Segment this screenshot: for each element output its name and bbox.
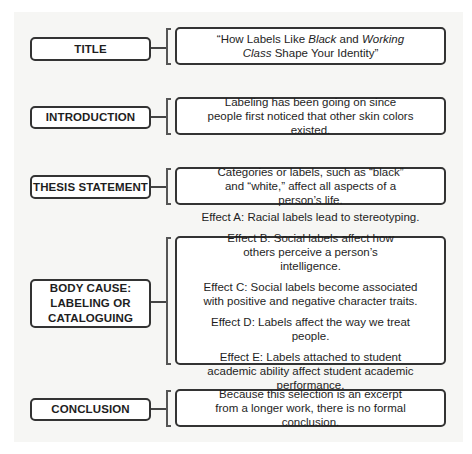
title-text-italic: Class — [243, 47, 272, 59]
thesis-content: Categories or labels, such as “black” an… — [207, 165, 414, 207]
effect-a: Effect A: Racial labels lead to stereoty… — [202, 210, 420, 224]
label-box-body-cause: BODY CAUSE: LABELING OR CATALOGUING — [30, 279, 151, 328]
label-box-introduction: INTRODUCTION — [30, 106, 151, 129]
effect-d: Effect D: Labels affect the way we treat… — [195, 315, 426, 343]
bracket-body-cause — [166, 237, 171, 365]
content-box-introduction: Labeling has been going on since people … — [175, 97, 446, 135]
label-conclusion: CONCLUSION — [51, 402, 129, 417]
label-box-conclusion: CONCLUSION — [30, 398, 151, 421]
content-box-title: “How Labels Like Black and Working Class… — [175, 27, 446, 65]
connector-introduction — [151, 116, 166, 118]
bracket-thesis — [166, 168, 171, 205]
bracket-introduction — [166, 98, 171, 135]
effect-b: Effect B: Social labels affect how other… — [195, 231, 426, 273]
content-box-thesis: Categories or labels, such as “black” an… — [175, 167, 446, 205]
connector-thesis — [151, 186, 166, 188]
label-introduction: INTRODUCTION — [46, 110, 135, 125]
connector-conclusion — [151, 408, 166, 410]
title-text-italic: Working — [362, 33, 404, 45]
connector-title — [151, 47, 166, 49]
content-box-body-cause: Effect A: Racial labels lead to stereoty… — [175, 236, 446, 365]
title-text-part: Shape Your Identity” — [271, 47, 378, 59]
label-title: TITLE — [74, 42, 106, 57]
label-box-title: TITLE — [30, 37, 151, 61]
effect-e: Effect E: Labels attached to student aca… — [195, 350, 426, 392]
bracket-title — [166, 28, 171, 65]
title-content: “How Labels Like Black and Working Class… — [217, 32, 404, 60]
title-text-part: “How Labels Like — [217, 33, 308, 45]
effect-c: Effect C: Social labels become associate… — [195, 280, 426, 308]
content-box-conclusion: Because this selection is an excerpt fro… — [175, 389, 446, 427]
conclusion-content: Because this selection is an excerpt fro… — [207, 387, 414, 429]
label-thesis: THESIS STATEMENT — [33, 180, 148, 195]
connector-body-cause — [151, 301, 166, 303]
label-box-thesis: THESIS STATEMENT — [30, 175, 151, 199]
title-text-part: and — [336, 33, 362, 45]
title-text-italic: Black — [308, 33, 336, 45]
bracket-conclusion — [166, 390, 171, 427]
label-body-cause: BODY CAUSE: LABELING OR CATALOGUING — [42, 281, 139, 326]
introduction-content: Labeling has been going on since people … — [207, 95, 414, 137]
